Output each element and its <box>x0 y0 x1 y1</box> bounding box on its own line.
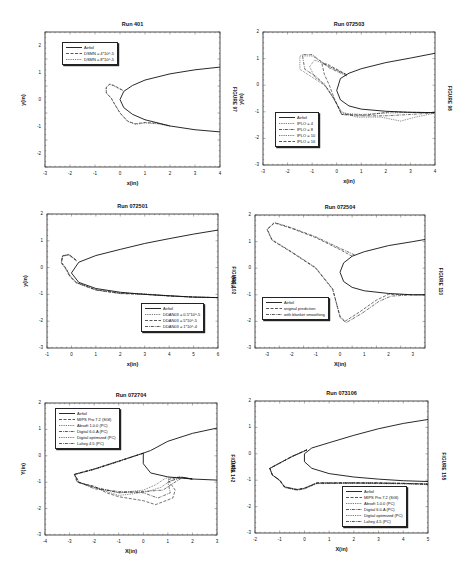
legend-label: IPLO = 16 <box>297 139 315 145</box>
series-line <box>310 60 435 115</box>
legend-line-swatch-icon <box>266 306 282 311</box>
y-axis-label: Y(in) <box>20 463 26 475</box>
series-line <box>61 255 218 298</box>
chart-panel: Run 072501-10123456-3-2-1012x(in)y(in)FI… <box>0 185 230 375</box>
x-tick-label: 1 <box>162 539 174 544</box>
x-tick-label: -1 <box>306 169 318 174</box>
series-line <box>74 453 192 493</box>
y-axis-label: y(in) <box>238 93 244 105</box>
legend-entry: IPLO = 16 <box>279 139 315 145</box>
x-tick-label: 1 <box>355 169 367 174</box>
legend-line-swatch-icon <box>59 411 75 416</box>
y-tick-label: 2 <box>249 29 259 34</box>
legend-line-swatch-icon <box>59 429 75 434</box>
legend-label: DDAN03 = 1*10^-4 <box>163 324 197 330</box>
x-tick-label: 0 <box>298 537 310 542</box>
y-tick-label: -2 <box>241 318 251 323</box>
legend-line-swatch-icon <box>266 300 282 305</box>
x-tick-label: 1 <box>358 352 370 357</box>
y-tick-label: 2 <box>33 211 43 216</box>
x-axis-label: X(in) <box>225 361 455 367</box>
plot-area <box>230 0 460 190</box>
x-tick-label: -2 <box>64 171 76 176</box>
y-tick-label: 0 <box>241 265 251 270</box>
x-tick-label: -1 <box>89 171 101 176</box>
figure-number-label: FIGURE 110 <box>438 267 443 295</box>
legend-line-swatch-icon <box>346 489 362 494</box>
x-tick-label: 1 <box>90 352 102 357</box>
x-tick-label: 4 <box>397 537 409 542</box>
chart-panel: Run 073106-2-1012345-3-2-1012X(in)Y(in)F… <box>230 375 460 565</box>
x-axis-label: X(in) <box>16 548 246 554</box>
legend-entry: DSMN = 8*10^-5 <box>66 57 114 63</box>
plot-area <box>0 0 230 190</box>
legend-line-swatch-icon <box>346 501 362 506</box>
x-tick-label: -2 <box>88 539 100 544</box>
x-tick-label: 2 <box>383 352 395 357</box>
legend-label: Lahey 4.5 (PC) <box>364 519 391 525</box>
legend-line-swatch-icon <box>346 513 362 518</box>
series-line <box>337 53 435 112</box>
legend-line-swatch-icon <box>145 324 161 329</box>
legend-line-swatch-icon <box>266 312 282 317</box>
y-tick-label: -3 <box>241 530 251 535</box>
x-tick-label: 0 <box>137 539 149 544</box>
y-tick-label: -2 <box>31 151 41 156</box>
x-tick-label: -1 <box>41 352 53 357</box>
legend-line-swatch-icon <box>59 435 75 440</box>
x-axis-label: X(in) <box>227 546 457 552</box>
x-tick-label: 4 <box>163 352 175 357</box>
series-line <box>304 419 428 481</box>
series-line <box>300 56 435 121</box>
y-tick-label: 0 <box>249 82 259 87</box>
legend-line-swatch-icon <box>145 318 161 323</box>
y-axis-label: y(in) <box>22 275 28 287</box>
x-tick-label: -1 <box>274 537 286 542</box>
series-line <box>322 64 435 115</box>
y-tick-label: 1 <box>31 426 41 431</box>
legend-line-swatch-icon <box>59 441 75 446</box>
legend-line-swatch-icon <box>145 306 161 311</box>
plot-area <box>230 185 460 375</box>
y-tick-label: -2 <box>31 506 41 511</box>
x-tick-label: -2 <box>249 537 261 542</box>
legend-entry: with blanket smoothing <box>266 312 325 318</box>
y-tick-label: 2 <box>31 43 41 48</box>
chart-legend: AirfoilDSMN = 4*10^-5DSMN = 8*10^-5 <box>62 42 118 65</box>
legend-line-swatch-icon <box>59 417 75 422</box>
y-tick-label: -1 <box>249 109 259 114</box>
x-tick-label: 5 <box>188 352 200 357</box>
chart-legend: AirfoilIPLO = 4IPLO = 8IPLO = 10IPLO = 1… <box>275 112 319 147</box>
legend-line-swatch-icon <box>279 133 295 138</box>
x-tick-label: 0 <box>334 352 346 357</box>
y-tick-label: 0 <box>33 265 43 270</box>
legend-line-swatch-icon <box>346 519 362 524</box>
legend-line-swatch-icon <box>145 312 161 317</box>
x-tick-label: 1 <box>139 171 151 176</box>
y-axis-label: Y(in) <box>230 461 236 473</box>
x-tick-label: 3 <box>404 169 416 174</box>
x-tick-label: -1 <box>310 352 322 357</box>
x-tick-label: 5 <box>422 537 434 542</box>
y-axis-label: Y(in) <box>230 275 236 287</box>
series-line <box>143 428 217 480</box>
x-axis-label: x(in) <box>18 361 248 367</box>
legend-entry: Lahey 4.5 (PC) <box>346 519 403 525</box>
y-tick-label: -1 <box>33 291 43 296</box>
legend-line-swatch-icon <box>66 51 82 56</box>
y-tick-label: -1 <box>241 292 251 297</box>
legend-line-swatch-icon <box>279 139 295 144</box>
y-tick-label: 1 <box>241 424 251 429</box>
y-tick-label: 2 <box>241 212 251 217</box>
legend-line-swatch-icon <box>346 495 362 500</box>
y-tick-label: -2 <box>241 504 251 509</box>
series-line <box>270 450 428 490</box>
x-tick-label: 4 <box>214 171 226 176</box>
x-axis-label: x(in) <box>234 178 460 184</box>
legend-line-swatch-icon <box>346 507 362 512</box>
legend-line-swatch-icon <box>66 57 82 62</box>
x-tick-label: -3 <box>257 169 269 174</box>
legend-label: with blanket smoothing <box>284 312 325 318</box>
legend-line-swatch-icon <box>66 45 82 50</box>
x-tick-label: -3 <box>261 352 273 357</box>
